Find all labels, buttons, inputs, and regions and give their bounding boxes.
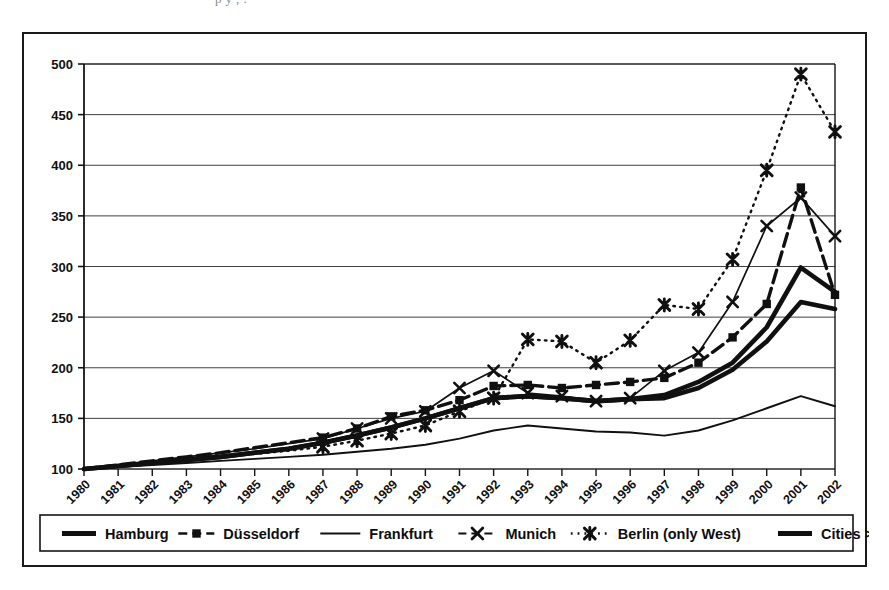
x-axis-tick-label: 1993 xyxy=(507,477,537,507)
series-d-sseldorf xyxy=(84,183,839,469)
y-axis-tick-label: 350 xyxy=(51,209,73,224)
y-axis-tick-label: 250 xyxy=(51,310,73,325)
chart-frame: 100150200250300350400450500 198019811982… xyxy=(22,32,867,567)
legend-item-label: Frankfurt xyxy=(369,526,433,542)
x-axis-tick-label: 1999 xyxy=(712,477,742,507)
y-axis-tick-label: 100 xyxy=(51,462,73,477)
clipped-caption-sliver: p y , . xyxy=(215,0,635,14)
x-axis-labels: 1980198119821983198419851986198719881989… xyxy=(64,477,845,507)
data-point-marker xyxy=(728,333,736,341)
series-line xyxy=(84,188,835,469)
chart-svg: 100150200250300350400450500 198019811982… xyxy=(24,34,869,569)
x-axis-tick-label: 1997 xyxy=(644,477,674,507)
x-axis-tick-label: 1992 xyxy=(473,477,503,507)
x-axis-tick-label: 1991 xyxy=(439,477,469,507)
series-hamburg xyxy=(84,302,835,469)
data-point-marker xyxy=(488,366,498,376)
data-point-marker xyxy=(763,300,771,308)
data-point-marker xyxy=(454,383,464,393)
data-point-marker xyxy=(761,164,772,176)
x-axis-tick-label: 1981 xyxy=(98,477,128,507)
y-axis-tick-label: 200 xyxy=(51,361,73,376)
x-axis-tick-label: 1988 xyxy=(337,477,367,507)
data-point-marker xyxy=(455,396,463,404)
x-axis-tick-label: 1998 xyxy=(678,477,708,507)
data-point-marker xyxy=(762,221,772,231)
x-axis-tick-label: 1990 xyxy=(405,477,435,507)
legend-item-label: Cities >500,000 xyxy=(821,526,869,542)
data-point-marker xyxy=(626,378,634,386)
y-axis-labels: 100150200250300350400450500 xyxy=(51,57,73,477)
data-point-marker xyxy=(625,334,636,346)
data-point-marker xyxy=(727,297,737,307)
x-axis-ticks xyxy=(84,469,835,476)
x-axis-tick-label: 1994 xyxy=(541,477,571,507)
data-point-marker xyxy=(524,381,532,389)
x-axis-tick-label: 2000 xyxy=(746,477,776,507)
x-axis-tick-label: 1995 xyxy=(576,477,606,507)
x-axis-tick-label: 1980 xyxy=(64,477,94,507)
screenshot-root: p y , . 100150200250300350400450500 1980… xyxy=(0,0,889,590)
legend-item[interactable]: Munich xyxy=(458,526,556,542)
legend-item-label: Berlin (only West) xyxy=(618,526,741,542)
y-axis-tick-label: 300 xyxy=(51,260,73,275)
y-axis-tick-label: 450 xyxy=(51,108,73,123)
series-line xyxy=(84,198,835,469)
data-point-marker xyxy=(591,357,602,369)
data-point-marker xyxy=(693,347,703,357)
legend-box: HamburgDüsseldorfFrankfurtMunichBerlin (… xyxy=(40,515,869,551)
x-axis-tick-label: 1982 xyxy=(132,477,162,507)
data-point-marker xyxy=(694,358,702,366)
x-axis-tick-label: 1985 xyxy=(234,477,264,507)
x-axis-tick-label: 2002 xyxy=(815,477,845,507)
clipped-caption-text: p y , . xyxy=(215,0,635,7)
x-axis-tick-label: 1983 xyxy=(166,477,196,507)
series-layer xyxy=(84,68,840,469)
x-axis-tick-label: 2001 xyxy=(780,477,810,507)
x-axis-tick-label: 1987 xyxy=(303,477,333,507)
x-axis-tick-label: 1984 xyxy=(200,477,230,507)
x-axis-tick-label: 1989 xyxy=(371,477,401,507)
data-point-marker xyxy=(797,183,805,191)
data-point-marker xyxy=(558,384,566,392)
data-point-marker xyxy=(727,253,738,265)
series-munich xyxy=(84,192,840,469)
legend-item-label: Munich xyxy=(505,526,556,542)
data-point-marker xyxy=(489,382,497,390)
series-line xyxy=(84,302,835,469)
line-chart: 100150200250300350400450500 198019811982… xyxy=(24,34,869,569)
legend-swatch-marker xyxy=(192,529,200,537)
data-point-marker xyxy=(592,381,600,389)
y-axis-tick-label: 150 xyxy=(51,411,73,426)
x-axis-tick-label: 1996 xyxy=(610,477,640,507)
data-point-marker xyxy=(830,126,841,138)
legend-item-label: Hamburg xyxy=(105,526,169,542)
y-axis-tick-label: 400 xyxy=(51,158,73,173)
y-axis-tick-label: 500 xyxy=(51,57,73,72)
x-axis-tick-label: 1986 xyxy=(268,477,298,507)
legend-item-label: Düsseldorf xyxy=(223,526,299,542)
data-point-marker xyxy=(795,68,806,80)
